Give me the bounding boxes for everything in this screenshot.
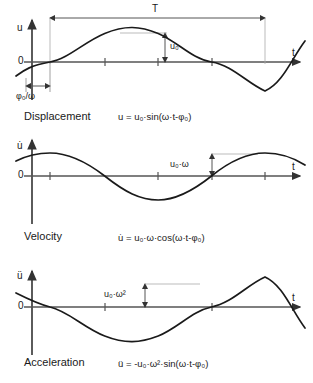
displacement-plot-svg bbox=[0, 0, 313, 128]
phase-offset-annotation bbox=[26, 62, 50, 92]
formula-rhs: u₀·ω·cos(ω·t-φ₀) bbox=[134, 232, 205, 243]
phase-offset-label: φ₀/ω bbox=[16, 92, 35, 101]
y-axis-label: ü bbox=[17, 271, 23, 281]
velocity-chart-panel: u̇ 0 t u₀·ω Velocity u̇ = u₀·ω·cos(ω·t-φ… bbox=[0, 128, 313, 256]
zero-label: 0 bbox=[18, 301, 24, 311]
displacement-curve bbox=[16, 27, 305, 91]
y-axis-label: u̇ bbox=[17, 141, 23, 151]
zero-label: 0 bbox=[18, 170, 24, 180]
formula: u̇ = u₀·ω·cos(ω·t-φ₀) bbox=[118, 233, 205, 243]
amplitude-annotation bbox=[145, 284, 200, 307]
formula-lhs: ü bbox=[118, 358, 123, 369]
displacement-chart-panel: u 0 t T u₀ φ₀/ω Displacement u = u₀·sin(… bbox=[0, 0, 313, 128]
formula: ü = -u₀·ω²·sin(ω·t-φ₀) bbox=[118, 359, 208, 369]
amplitude-annotation bbox=[212, 154, 258, 176]
amplitude-label: u₀ bbox=[170, 42, 179, 51]
x-axis-label: t bbox=[292, 162, 295, 172]
quantity-name-label: Displacement bbox=[24, 111, 91, 122]
quantity-name-label: Acceleration bbox=[24, 357, 85, 368]
x-axis-label: t bbox=[292, 48, 295, 58]
formula-lhs: u̇ bbox=[118, 232, 123, 243]
quantity-name-label: Velocity bbox=[24, 231, 62, 242]
formula-rhs: -u₀·ω²·sin(ω·t-φ₀) bbox=[134, 358, 208, 369]
amplitude-label: u₀·ω² bbox=[104, 290, 126, 299]
acceleration-chart-panel: ü 0 t u₀·ω² Acceleration ü = -u₀·ω²·si… bbox=[0, 255, 313, 383]
period-label: T bbox=[152, 4, 158, 14]
acceleration-curve bbox=[16, 277, 305, 342]
y-axis-label: u bbox=[17, 23, 23, 33]
formula-equals: = bbox=[126, 111, 134, 122]
formula-rhs: u₀·sin(ω·t-φ₀) bbox=[134, 111, 191, 122]
amplitude-annotation bbox=[120, 33, 167, 62]
formula-equals: = bbox=[126, 232, 134, 243]
formula-equals: = bbox=[126, 358, 134, 369]
zero-label: 0 bbox=[18, 56, 24, 66]
amplitude-label: u₀·ω bbox=[170, 160, 189, 169]
formula: u = u₀·sin(ω·t-φ₀) bbox=[118, 112, 191, 122]
x-axis-label: t bbox=[292, 293, 295, 303]
formula-lhs: u bbox=[118, 111, 123, 122]
period-annotation bbox=[50, 18, 265, 64]
